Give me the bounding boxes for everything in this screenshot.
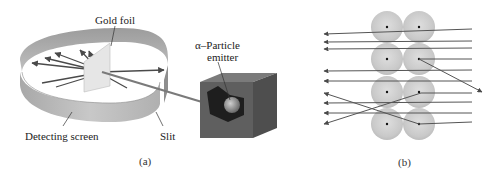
alpha-emitter-box: [200, 73, 277, 138]
gold-foil-label: Gold foil: [95, 14, 135, 26]
alpha-particle-paths: [324, 29, 482, 124]
detecting-screen-label: Detecting screen: [25, 130, 99, 142]
gold-foil: [84, 43, 110, 92]
rutherford-figure: Gold foil α–Particle emitter Detecting s…: [0, 0, 494, 177]
emitter-label-line2: emitter: [207, 51, 238, 63]
gold-foil-experiment-illustration: [0, 0, 494, 177]
caption-a: (a): [139, 155, 151, 167]
caption-b: (b): [398, 156, 411, 168]
emitter-label-line1: α–Particle: [195, 39, 240, 51]
slit-label: Slit: [160, 130, 175, 142]
